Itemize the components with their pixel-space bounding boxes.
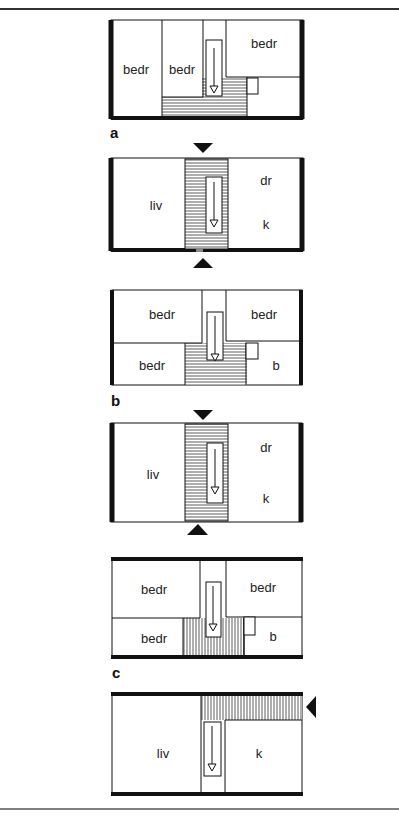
entrance-arrow-right bbox=[306, 696, 316, 718]
room-label: liv bbox=[157, 746, 170, 761]
room-label: b bbox=[269, 629, 276, 644]
room-label: bedr bbox=[251, 307, 278, 322]
floor-plan-figure: bedr bedr bedr a liv dr k bedr bedr bbox=[0, 0, 399, 817]
room-label: bedr bbox=[169, 62, 196, 77]
room-label: dr bbox=[260, 440, 272, 455]
plan-c-upper: bedr bedr bedr b bbox=[111, 559, 303, 657]
room-label: bedr bbox=[250, 580, 277, 595]
plan-a-upper: bedr bedr bedr bbox=[111, 20, 303, 119]
room-label: bedr bbox=[149, 307, 176, 322]
room-label: bedr bbox=[141, 631, 168, 646]
caption-b: b bbox=[111, 392, 120, 409]
room-label: b bbox=[272, 358, 279, 373]
room-label: dr bbox=[260, 173, 272, 188]
entrance-arrow-bottom bbox=[193, 258, 213, 268]
entrance-arrow-bottom bbox=[187, 524, 208, 535]
plan-b-upper: bedr bedr bedr b bbox=[112, 290, 302, 385]
room-label: bedr bbox=[123, 62, 150, 77]
caption-c: c bbox=[112, 664, 120, 681]
room-label: liv bbox=[147, 467, 160, 482]
room-label: bedr bbox=[139, 358, 166, 373]
plan-a-lower: liv dr k bbox=[111, 143, 303, 268]
entrance-arrow-top bbox=[193, 143, 213, 153]
room-label: bedr bbox=[141, 582, 168, 597]
caption-a: a bbox=[110, 124, 119, 141]
room-label: k bbox=[256, 746, 263, 761]
room-label: bedr bbox=[251, 36, 278, 51]
room-label: k bbox=[263, 491, 270, 506]
room-label: k bbox=[263, 217, 270, 232]
room-label: liv bbox=[150, 198, 163, 213]
entrance-arrow-top bbox=[193, 410, 213, 420]
plan-b-lower: liv dr k bbox=[111, 410, 302, 535]
plan-c-lower: liv k bbox=[111, 694, 316, 794]
